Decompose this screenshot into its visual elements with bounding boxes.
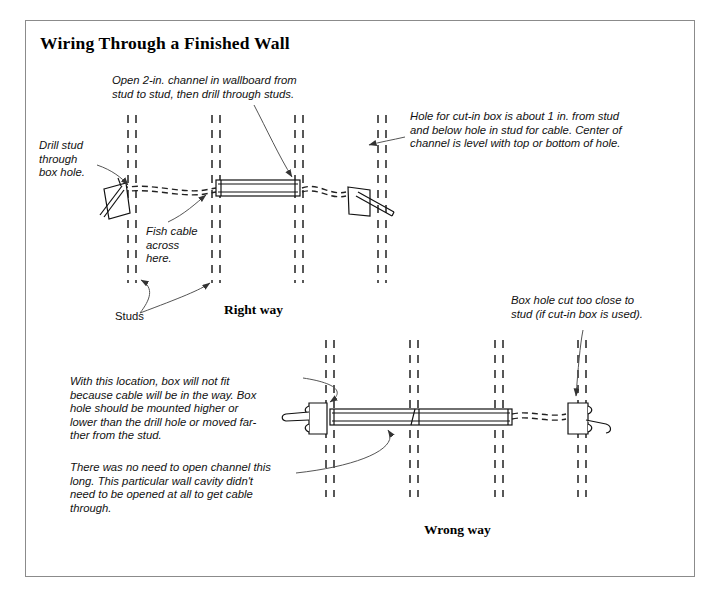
page-title: Wiring Through a Finished Wall [40, 33, 290, 54]
diagram-page: Wiring Through a Finished Wall [0, 0, 710, 605]
note-box-will-not-fit: With this location, box will not fit bec… [70, 375, 256, 443]
note-box-hole-too-close: Box hole cut too close to stud (if cut-i… [511, 294, 643, 321]
note-no-need-to-open: There was no need to open channel this l… [70, 461, 271, 515]
note-fish-cable: Fish cable across here. [146, 225, 198, 266]
note-open-channel: Open 2-in. channel in wallboard from stu… [112, 74, 297, 101]
note-cut-in-box-hole: Hole for cut-in box is about 1 in. from … [410, 110, 622, 151]
caption-wrong-way: Wrong way [424, 522, 491, 538]
caption-right-way: Right way [224, 302, 283, 318]
note-drill-stud: Drill stud through box hole. [39, 139, 85, 180]
label-studs: Studs [115, 310, 144, 322]
